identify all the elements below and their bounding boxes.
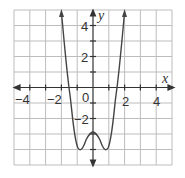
- y-axis-up-arrow-icon: [91, 10, 96, 16]
- function-graph: −4 −2 0 2 4 4 2 −2 y x: [0, 0, 185, 178]
- x-tick-2: 2: [122, 94, 129, 109]
- x-tick-neg4: −4: [15, 92, 30, 107]
- y-axis-label: y: [96, 8, 105, 23]
- x-axis-label: x: [161, 71, 169, 86]
- origin-label: 0: [82, 90, 89, 105]
- x-tick-4: 4: [153, 94, 160, 109]
- axes: [14, 10, 174, 166]
- x-axis-left-arrow-icon: [14, 85, 20, 90]
- x-axis-right-arrow-icon: [168, 85, 174, 90]
- x-tick-neg2: −2: [47, 92, 62, 107]
- y-tick-4: 4: [81, 19, 88, 34]
- y-tick-2: 2: [81, 50, 88, 65]
- y-tick-neg2: −2: [74, 112, 89, 127]
